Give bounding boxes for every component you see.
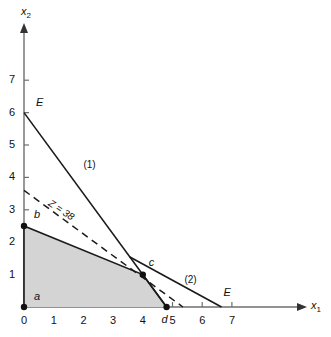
vertex-dot-d [163, 304, 169, 310]
x-tick-label-4: 4 [140, 315, 146, 326]
constraint-label-1: (1) [83, 160, 95, 170]
feasible-region-polygon [24, 226, 167, 307]
vertex-label-b: b [34, 209, 40, 220]
x-tick-label-6: 6 [199, 315, 205, 326]
endpoint-label-E-right: E [224, 287, 231, 298]
y-tick-label-6: 6 [9, 107, 15, 118]
y-tick-label-4: 4 [9, 171, 15, 182]
constraint-label-2: (2) [184, 275, 196, 285]
x-tick-label-1: 1 [51, 315, 57, 326]
y-tick-label-2: 2 [9, 236, 15, 247]
x-axis-arrow [297, 303, 307, 311]
vertex-dot-a [21, 304, 27, 310]
vertex-dot-c [140, 271, 146, 277]
endpoint-label-E-upper: E [36, 97, 43, 108]
chart-canvas [0, 0, 331, 337]
vertex-dot-b [21, 223, 27, 229]
x-tick-label-7: 7 [229, 315, 235, 326]
y-tick-label-7: 7 [9, 74, 15, 85]
y-tick-label-1: 1 [9, 269, 15, 280]
y-axis-title: x2 [21, 6, 31, 20]
x-tick-label-0: 0 [21, 315, 27, 326]
vertex-label-d: d [162, 314, 168, 325]
x-axis-title: x1 [311, 300, 321, 314]
vertex-label-a: a [34, 291, 40, 302]
x-tick-label-3: 3 [110, 315, 116, 326]
y-tick-label-5: 5 [9, 139, 15, 150]
x-tick-label-2: 2 [80, 315, 86, 326]
y-axis-arrow [20, 23, 28, 33]
figure-container: x2 x1 01234567 1234567 abcd EE (1)(2)Z =… [0, 0, 331, 337]
y-tick-label-3: 3 [9, 204, 15, 215]
vertex-label-c: c [149, 257, 155, 268]
x-tick-label-5: 5 [170, 315, 176, 326]
